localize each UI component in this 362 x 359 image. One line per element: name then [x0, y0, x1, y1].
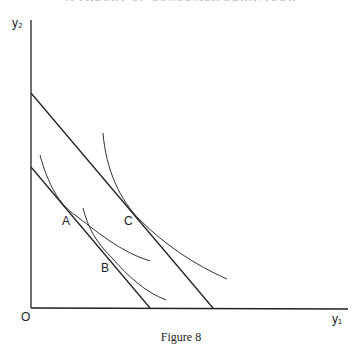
point-c-label: C	[124, 214, 133, 228]
indifference-curve-a	[40, 155, 150, 261]
budget-line-lower	[31, 167, 150, 308]
x-axis	[31, 308, 348, 309]
origin-label: O	[21, 310, 30, 324]
y-axis-label: y₂	[12, 16, 23, 30]
point-a-label: A	[62, 214, 70, 228]
indifference-diagram	[0, 0, 362, 359]
indifference-curve-c	[103, 133, 227, 279]
x-axis-label: y₁	[332, 312, 342, 326]
figure-caption: Figure 8	[0, 330, 362, 345]
point-b-label: B	[101, 261, 109, 275]
